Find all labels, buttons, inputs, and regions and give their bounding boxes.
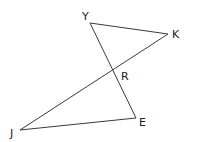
- point-label-r: R: [121, 70, 129, 83]
- point-label-k: K: [172, 28, 180, 41]
- point-label-e: E: [139, 116, 146, 129]
- segment-ye: [90, 23, 136, 118]
- point-label-j: J: [9, 127, 13, 140]
- point-label-y: Y: [81, 10, 89, 23]
- segment-yk: [90, 23, 168, 34]
- segments-group: [20, 23, 168, 130]
- geometry-diagram: Y K R J E: [0, 0, 197, 142]
- segment-je: [20, 118, 136, 130]
